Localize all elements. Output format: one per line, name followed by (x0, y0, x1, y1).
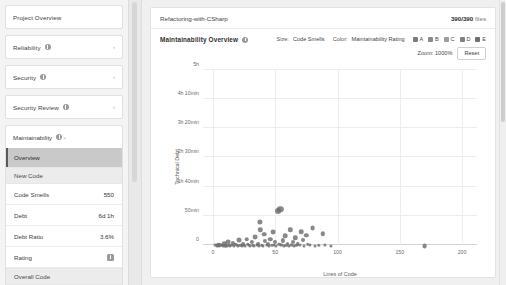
sonarqube-window: Project Overview Reliability › Security … (0, 0, 506, 285)
scatter-point[interactable] (320, 232, 324, 236)
legend-item-b[interactable]: B (428, 36, 439, 42)
project-overview-label: Project Overview (13, 14, 61, 21)
scatter-point[interactable] (422, 243, 427, 248)
y-gridline: 2h 30min (203, 156, 477, 157)
y-gridline: 3h 20min (203, 127, 477, 128)
scatter-point[interactable] (299, 244, 302, 247)
metric-row-debt-ratio[interactable]: Debt Ratio 3.6% (6, 226, 122, 247)
x-axis-tick: 100 (333, 249, 342, 255)
scatter-point[interactable] (323, 244, 326, 247)
info-icon[interactable] (63, 104, 69, 110)
legend-item-a[interactable]: A (413, 36, 424, 42)
scatter-point[interactable] (317, 243, 320, 246)
scatter-point[interactable] (281, 239, 285, 243)
x-gridline: 150 (400, 70, 401, 245)
scatter-point[interactable] (288, 227, 292, 231)
scatter-plot[interactable]: Technical Debt 050min1h 40min2h 30min3h … (157, 64, 483, 271)
x-axis-tick: 50 (272, 249, 278, 255)
info-icon[interactable] (40, 74, 46, 80)
chevron-right-icon: › (113, 104, 115, 110)
page-scrollbar[interactable] (499, 0, 506, 285)
legend-label: E (482, 36, 486, 42)
y-axis-tick: 4h 10min (178, 90, 199, 96)
scatter-point[interactable] (270, 230, 275, 235)
reset-button[interactable]: Reset (457, 47, 486, 60)
plot-inner[interactable]: 050min1h 40min2h 30min3h 20min4h 10min5h… (203, 70, 477, 245)
legend-swatch-icon (460, 37, 465, 42)
scatter-point[interactable] (304, 233, 308, 237)
breadcrumb[interactable]: Refactoring-with-CSharp (160, 15, 228, 22)
y-axis-tick: 1h 40min (178, 178, 199, 184)
chart-title-text: Maintainability Overview (160, 36, 238, 43)
security-review-label: Security Review (13, 104, 59, 111)
scatter-point[interactable] (309, 244, 312, 247)
scatter-point[interactable] (299, 229, 304, 234)
legend-label: B (435, 36, 439, 42)
scatter-point[interactable] (268, 237, 272, 241)
security-label: Security (13, 74, 36, 81)
rating-badge (107, 254, 114, 261)
legend-label: D (466, 36, 470, 42)
section-header-new-code: New Code (6, 167, 122, 184)
chart-panel: Refactoring-with-CSharp 390/390 files Ma… (150, 7, 496, 278)
sidebar-group-maintainability: Maintainability ⌄ Overview New Code Code… (5, 125, 123, 285)
scatter-point[interactable] (258, 219, 263, 224)
scatter-point[interactable] (261, 244, 264, 247)
sidebar-item-security-review[interactable]: Security Review › (5, 95, 123, 119)
y-gridline: 1h 40min (203, 186, 477, 187)
chart-controls: Size: Code Smells Color: Maintainability… (276, 36, 486, 60)
sidebar-item-project-overview[interactable]: Project Overview (5, 5, 123, 29)
legend-swatch-icon (413, 37, 418, 42)
x-axis-tick: 150 (395, 249, 404, 255)
metric-label: Debt Ratio (14, 233, 43, 240)
metric-row-code-smells[interactable]: Code Smells 550 (6, 184, 122, 205)
sidebar-scrollbar[interactable] (132, 2, 137, 182)
scatter-point[interactable] (262, 232, 267, 237)
sidebar-item-overview[interactable]: Overview (6, 148, 122, 167)
page-scrollbar-thumb[interactable] (501, 2, 505, 122)
scatter-point[interactable] (244, 237, 249, 242)
zoom-level-label: Zoom: 1000% (418, 50, 453, 56)
y-axis-tick: 3h 20min (178, 119, 199, 125)
legend-item-e[interactable]: E (475, 36, 486, 42)
legend-swatch-icon (444, 37, 449, 42)
main-content: Refactoring-with-CSharp 390/390 files Ma… (142, 0, 506, 285)
metric-row-debt[interactable]: Debt 6d 1h (6, 205, 122, 226)
scatter-point[interactable] (258, 227, 262, 231)
legend-item-c[interactable]: C (444, 36, 455, 42)
metric-row-rating[interactable]: Rating (6, 247, 122, 268)
x-gridline: 50 (275, 70, 276, 245)
metric-value: 3.6% (100, 233, 114, 240)
legend-swatches: ABCDE (413, 36, 486, 42)
legend-item-d[interactable]: D (460, 36, 471, 42)
scatter-point[interactable] (293, 236, 297, 240)
scatter-point[interactable] (277, 206, 283, 212)
info-icon[interactable] (242, 37, 248, 43)
y-axis-tick: 5h (193, 61, 199, 67)
files-count: 390/390 files (451, 15, 486, 22)
scatter-point[interactable] (283, 233, 288, 238)
section-header-overall-code: Overall Code (6, 268, 122, 285)
sidebar: Project Overview Reliability › Security … (0, 0, 128, 285)
scatter-point[interactable] (330, 244, 333, 247)
metric-value: 550 (104, 191, 114, 198)
scatter-point[interactable] (310, 225, 315, 230)
files-count-label: files (475, 15, 486, 22)
x-axis-tick: 200 (458, 249, 467, 255)
maintainability-label: Maintainability (13, 134, 52, 141)
sidebar-item-security[interactable]: Security › (5, 65, 123, 89)
scatter-point[interactable] (301, 238, 305, 242)
x-axis-tick: 0 (212, 249, 215, 255)
files-count-value: 390/390 (451, 15, 473, 22)
zoom-controls: Zoom: 1000% Reset (418, 47, 486, 60)
size-value-label: Code Smells (293, 36, 325, 42)
sidebar-item-reliability[interactable]: Reliability › (5, 35, 123, 59)
y-gridline: 4h 10min (203, 98, 477, 99)
scatter-point[interactable] (253, 234, 258, 239)
sidebar-item-maintainability[interactable]: Maintainability ⌄ (6, 126, 122, 148)
legend-swatch-icon (428, 37, 433, 42)
size-key-label: Size: (276, 36, 288, 42)
info-icon[interactable] (45, 44, 51, 50)
metric-label: Debt (14, 212, 27, 219)
metric-label: Rating (14, 254, 32, 261)
